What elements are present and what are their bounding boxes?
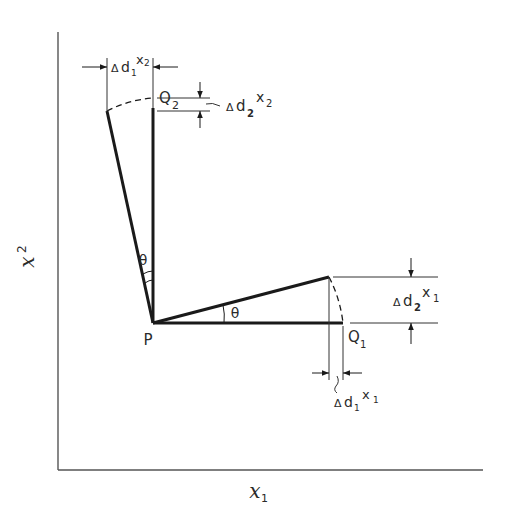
svg-text:2: 2 bbox=[266, 98, 272, 109]
y-axis-label: x 2 bbox=[15, 245, 39, 267]
arc-q2 bbox=[107, 98, 153, 111]
svg-text:x: x bbox=[249, 479, 260, 503]
svg-text:d: d bbox=[121, 59, 130, 75]
svg-text:x: x bbox=[15, 256, 39, 267]
svg-text:x: x bbox=[136, 52, 144, 67]
svg-text:x: x bbox=[422, 284, 430, 300]
arc-q1 bbox=[329, 277, 343, 323]
svg-text:2: 2 bbox=[247, 108, 254, 119]
vector-pq1-rotated bbox=[153, 277, 329, 323]
x-axis-label: x 1 bbox=[249, 479, 268, 505]
point-p-label: P bbox=[143, 331, 152, 349]
svg-text:d: d bbox=[236, 97, 246, 115]
svg-text:x: x bbox=[256, 89, 264, 105]
svg-text:1: 1 bbox=[373, 395, 379, 405]
svg-text:Δ: Δ bbox=[393, 296, 401, 309]
svg-text:d: d bbox=[344, 394, 353, 410]
diagram-canvas: x 2 x 1 θ θ P Q 1 Q 2 Δ d 1 x 2 bbox=[0, 0, 510, 531]
svg-text:Δ: Δ bbox=[111, 62, 119, 75]
svg-text:1: 1 bbox=[433, 293, 439, 304]
theta-upper: θ bbox=[139, 252, 148, 268]
svg-text:2: 2 bbox=[144, 58, 150, 68]
svg-text:1: 1 bbox=[261, 492, 268, 505]
svg-text:Q: Q bbox=[348, 328, 360, 346]
angle-arc-lower bbox=[223, 305, 224, 323]
svg-text:2: 2 bbox=[15, 245, 29, 253]
point-q2-label: Q 2 bbox=[159, 89, 179, 112]
point-q1-label: Q 1 bbox=[348, 328, 366, 350]
svg-text:Δ: Δ bbox=[334, 397, 342, 410]
svg-text:2: 2 bbox=[414, 302, 421, 313]
svg-text:2: 2 bbox=[172, 99, 179, 112]
svg-text:1: 1 bbox=[360, 339, 366, 350]
dimension-bottom-horizontal: Δ d 1 x 1 bbox=[312, 277, 379, 413]
svg-text:Δ: Δ bbox=[226, 101, 234, 114]
vectors bbox=[107, 108, 343, 323]
svg-text:1: 1 bbox=[354, 403, 360, 413]
svg-text:d: d bbox=[403, 292, 413, 310]
vector-pq2-rotated bbox=[107, 111, 153, 323]
svg-text:x: x bbox=[362, 387, 370, 402]
svg-text:1: 1 bbox=[131, 68, 137, 78]
theta-lower: θ bbox=[231, 305, 240, 321]
